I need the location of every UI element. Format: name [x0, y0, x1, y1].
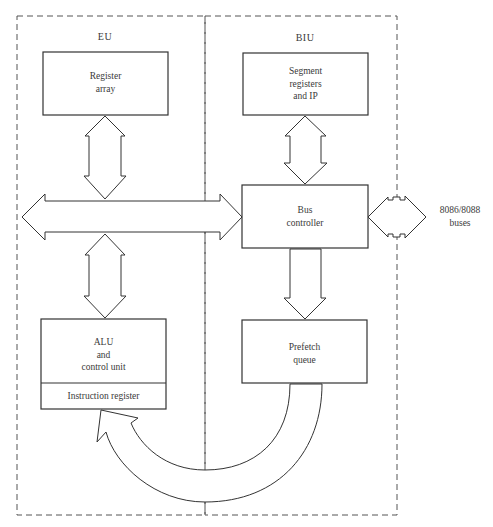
- bus-controller-label: Bus controller: [242, 204, 368, 229]
- external-buses-label: 8086/8088 buses: [428, 204, 492, 229]
- segment-bus-controller-arrow-icon: [284, 116, 327, 184]
- instruction-register-label: Instruction register: [41, 390, 166, 403]
- bus-alu-arrow-icon: [84, 234, 126, 318]
- register-array-label: Register array: [43, 70, 168, 95]
- segment-registers-label: Segment registers and IP: [243, 65, 368, 103]
- biu-label: BIU: [287, 32, 323, 45]
- bus-prefetch-arrow-icon: [284, 249, 326, 319]
- eu-label: EU: [87, 31, 123, 44]
- internal-bus-arrow-icon: [22, 194, 242, 240]
- alu-label: ALU and control unit: [41, 336, 166, 374]
- register-bus-arrow-icon: [84, 116, 126, 199]
- prefetch-queue-label: Prefetch queue: [242, 341, 367, 366]
- external-bus-arrow-icon: [368, 196, 426, 238]
